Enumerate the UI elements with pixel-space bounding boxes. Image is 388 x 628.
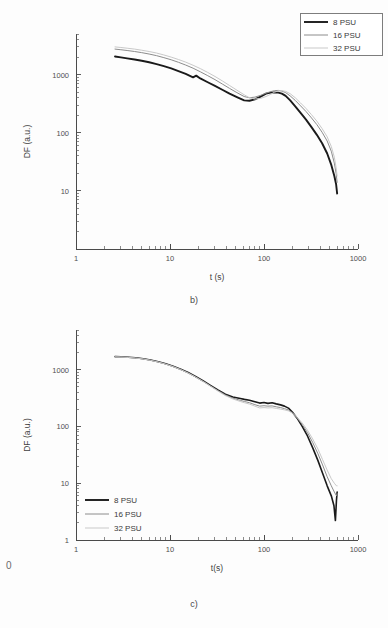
series-line-8-psu	[115, 57, 337, 194]
plot-canvas-b: 1101001000101001000t (s)DF (a.u.)8 PSU16…	[0, 0, 388, 315]
y-axis-title: DF (a.u.)	[22, 418, 32, 452]
x-tick-label: 1	[74, 254, 78, 263]
y-tick-label: 10	[61, 187, 69, 196]
panel-caption-c: c)	[0, 599, 388, 609]
chart-panel-b: 1101001000101001000t (s)DF (a.u.)8 PSU16…	[0, 0, 388, 315]
y-tick-label: 1	[65, 536, 69, 545]
x-axis-title: t (s)	[210, 272, 225, 282]
x-tick-label: 10	[166, 254, 174, 263]
x-tick-label: 10	[166, 545, 174, 554]
chart-panel-c: 11010010001101001000t(s)DF (a.u.)8 PSU16…	[0, 313, 388, 628]
legend-label-8-psu: 8 PSU	[333, 18, 356, 27]
x-tick-label: 1000	[350, 545, 367, 554]
page-margin-mark: 0	[6, 560, 12, 571]
legend-label-16-psu: 16 PSU	[114, 510, 142, 519]
y-tick-label: 100	[56, 129, 69, 138]
series-line-16-psu	[115, 357, 337, 496]
figure-page: 1101001000101001000t (s)DF (a.u.)8 PSU16…	[0, 0, 388, 628]
x-axis-title: t(s)	[211, 563, 223, 573]
panel-caption-b: b)	[0, 295, 388, 305]
y-tick-label: 10	[61, 479, 69, 488]
y-tick-label: 1000	[52, 366, 69, 375]
series-line-32-psu	[115, 357, 337, 486]
series-line-32-psu	[115, 47, 337, 176]
x-tick-label: 1	[74, 545, 78, 554]
y-tick-label: 1000	[52, 71, 69, 80]
series-line-8-psu	[115, 357, 337, 521]
legend-label-32-psu: 32 PSU	[333, 44, 361, 53]
x-tick-label: 100	[258, 254, 271, 263]
plot-canvas-c: 11010010001101001000t(s)DF (a.u.)8 PSU16…	[0, 313, 388, 628]
y-axis-title: DF (a.u.)	[22, 125, 32, 159]
legend-label-32-psu: 32 PSU	[114, 524, 142, 533]
legend-label-8-psu: 8 PSU	[114, 496, 137, 505]
y-tick-label: 100	[56, 422, 69, 431]
x-tick-label: 1000	[350, 254, 367, 263]
x-tick-label: 100	[258, 545, 271, 554]
legend-label-16-psu: 16 PSU	[333, 31, 361, 40]
